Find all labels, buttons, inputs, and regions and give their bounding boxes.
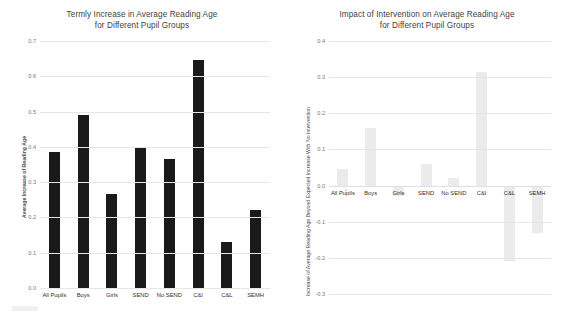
x-axis-tick-label: Boys <box>364 190 377 196</box>
x-axis-tick-label: No SEND <box>157 292 182 298</box>
gridline <box>329 294 551 295</box>
gridline <box>329 258 551 259</box>
y-axis-tick-label: 0.3 <box>28 179 36 185</box>
bar <box>164 159 175 288</box>
bar <box>250 210 261 288</box>
gridline <box>329 113 551 114</box>
bar <box>221 242 232 288</box>
bar-group <box>412 41 440 294</box>
bar-group <box>523 41 551 294</box>
gridline <box>329 41 551 42</box>
bar-group: C&I <box>184 41 213 288</box>
bar-group: SEND <box>126 41 155 288</box>
bar-group: Boys <box>69 41 98 288</box>
bar <box>504 186 515 262</box>
x-axis-tick-label: SEMH <box>529 190 546 196</box>
stray-mark-icon <box>345 189 347 191</box>
bar-series-left: All PupilsBoysGirlsSENDNo SENDC&IC&LSEMH <box>40 41 270 288</box>
bar-group <box>357 41 385 294</box>
page-artifact <box>12 306 38 311</box>
y-axis-tick-label: 0.1 <box>317 146 325 152</box>
gridline <box>329 222 551 223</box>
y-axis-tick-label: 0.1 <box>28 250 36 256</box>
gridline <box>40 147 270 148</box>
y-axis-tick-label: -0.2 <box>315 255 325 261</box>
gridline <box>40 112 270 113</box>
figure-container: Termly Increase in Average Reading Age f… <box>0 0 569 322</box>
chart-title-right-line1: Impact of Intervention on Average Readin… <box>339 10 514 19</box>
bar-group: No SEND <box>155 41 184 288</box>
x-axis-tick-label: SEND <box>133 292 149 298</box>
gridline <box>40 76 270 77</box>
x-axis-tick-label: Girls <box>392 190 404 196</box>
chart-title-left-line1: Termly Increase in Average Reading Age <box>67 10 218 19</box>
bar-group <box>385 41 413 294</box>
bar-group: SEMH <box>241 41 270 288</box>
x-axis-tick-label: C&I <box>477 190 487 196</box>
x-axis-tick-label: No SEND <box>441 190 466 196</box>
gridline <box>329 186 551 187</box>
gridline <box>40 288 270 289</box>
y-axis-tick-label: 0.4 <box>317 38 325 44</box>
bar <box>337 169 348 185</box>
bar <box>78 115 89 288</box>
bar <box>49 152 60 288</box>
plot-area-left: All PupilsBoysGirlsSENDNo SENDC&IC&LSEMH… <box>40 41 270 288</box>
chart-title-left: Termly Increase in Average Reading Age f… <box>0 10 284 31</box>
x-axis-tick-label: Boys <box>77 292 90 298</box>
y-axis-tick-label: 0.0 <box>28 285 36 291</box>
y-axis-tick-label: 0.0 <box>317 183 325 189</box>
x-axis-tick-label: C&L <box>221 292 232 298</box>
y-axis-tick-label: 0.7 <box>28 38 36 44</box>
y-axis-tick-label: 0.6 <box>28 73 36 79</box>
chart-title-right: Impact of Intervention on Average Readin… <box>285 10 569 31</box>
bar <box>193 60 204 288</box>
gridline <box>40 41 270 42</box>
chart-title-left-line2: for Different Pupil Groups <box>0 21 284 32</box>
gridline <box>329 149 551 150</box>
x-axis-tick-label: C&I <box>193 292 203 298</box>
plot-area-right: All PupilsBoysGirlsSENDNo SENDC&IC&LSEMH… <box>329 41 551 294</box>
bar-group <box>496 41 524 294</box>
bar-group: C&L <box>213 41 242 288</box>
bar <box>365 128 376 186</box>
y-axis-tick-label: 0.4 <box>28 144 36 150</box>
bar-group <box>329 41 357 294</box>
y-axis-tick-label: -0.3 <box>315 291 325 297</box>
chart-termly-increase: Termly Increase in Average Reading Age f… <box>0 0 284 322</box>
x-axis-tick-label: Girls <box>106 292 118 298</box>
y-axis-label-left: Average Increase of Reading Age <box>21 136 27 218</box>
chart-intervention-impact: Impact of Intervention on Average Readin… <box>285 0 569 322</box>
x-axis-tick-label: All Pupils <box>42 292 66 298</box>
x-axis-tick-label: SEND <box>418 190 434 196</box>
x-axis-tick-label: All Pupils <box>331 190 355 196</box>
bar-group <box>468 41 496 294</box>
bar-group: Girls <box>98 41 127 288</box>
bar <box>421 164 432 186</box>
y-axis-tick-label: 0.5 <box>28 109 36 115</box>
y-axis-tick-label: 0.2 <box>317 110 325 116</box>
chart-title-right-line2: for Different Pupil Groups <box>285 21 569 32</box>
gridline <box>40 253 270 254</box>
bar-group <box>440 41 468 294</box>
bar <box>448 178 459 185</box>
bar <box>476 72 487 186</box>
bar-group: All Pupils <box>40 41 69 288</box>
x-axis-tick-label: SEMH <box>247 292 264 298</box>
bar <box>106 194 117 288</box>
gridline <box>40 217 270 218</box>
y-axis-tick-label: -0.1 <box>315 219 325 225</box>
y-axis-tick-label: 0.2 <box>28 214 36 220</box>
x-axis-tick-label: C&L <box>504 190 515 196</box>
gridline <box>329 77 551 78</box>
y-axis-tick-label: 0.3 <box>317 74 325 80</box>
bar-series-right <box>329 41 551 294</box>
gridline <box>40 182 270 183</box>
y-axis-label-right: Increase of Average Reading Age Beyond E… <box>305 107 311 296</box>
